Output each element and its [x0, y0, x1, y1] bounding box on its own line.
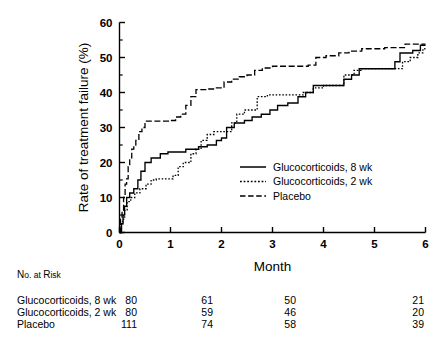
chart-legend[interactable]: Glucocorticoids, 8 wkGlucocorticoids, 2 …: [240, 161, 373, 202]
risk-cell: 74: [201, 318, 213, 330]
risk-cell: 20: [412, 306, 424, 318]
risk-row-label: Glucocorticoids, 2 wk: [17, 306, 117, 318]
figure-container: 01234560102030405060MonthRate of treatme…: [0, 0, 445, 354]
series-line-1: [120, 45, 426, 232]
x-tick-label: 4: [320, 238, 327, 250]
y-tick-label: 50: [100, 52, 113, 64]
risk-cell: 111: [121, 318, 137, 330]
risk-table: No. at RiskGlucocorticoids, 8 wk80615021…: [17, 269, 424, 330]
y-tick-label: 60: [100, 17, 113, 29]
legend-label-3: Placebo: [273, 190, 311, 202]
risk-cell: 46: [284, 306, 296, 318]
y-axis-title: Rate of treatment failure (%): [76, 43, 91, 213]
x-tick-label: 0: [116, 238, 122, 250]
x-axis-title: Month: [254, 259, 292, 274]
series-line-2: [120, 49, 426, 233]
risk-table-heading: No. at Risk: [17, 269, 62, 280]
risk-row-label: Glucocorticoids, 8 wk: [17, 294, 117, 306]
x-tick-label: 3: [269, 238, 275, 250]
y-tick-label: 20: [100, 157, 113, 169]
series-lines: [120, 44, 426, 232]
treatment-failure-chart: 01234560102030405060MonthRate of treatme…: [0, 0, 445, 354]
y-tick-label: 30: [100, 122, 113, 134]
y-tick-label: 40: [100, 87, 113, 99]
legend-label-2: Glucocorticoids, 2 wk: [273, 175, 373, 187]
x-tick-label: 5: [371, 238, 378, 250]
risk-cell: 50: [284, 294, 296, 306]
y-tick-label: 10: [100, 192, 113, 204]
series-line-3: [120, 44, 426, 232]
risk-cell: 61: [201, 294, 213, 306]
x-tick-label: 2: [218, 238, 224, 250]
risk-cell: 80: [125, 294, 137, 306]
y-tick-label: 0: [106, 227, 112, 239]
risk-row-label: Placebo: [17, 318, 55, 330]
x-tick-label: 1: [167, 238, 174, 250]
x-tick-label: 6: [422, 238, 428, 250]
risk-cell: 59: [201, 306, 213, 318]
risk-cell: 21: [412, 294, 424, 306]
risk-cell: 58: [284, 318, 296, 330]
risk-cell: 80: [125, 306, 137, 318]
risk-cell: 39: [412, 318, 424, 330]
axis-labels: 01234560102030405060MonthRate of treatme…: [76, 17, 429, 274]
legend-label-1: Glucocorticoids, 8 wk: [273, 161, 373, 173]
